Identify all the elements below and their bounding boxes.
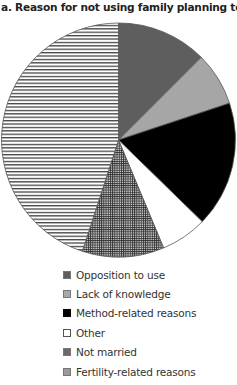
- legend-label: Method-related reasons: [76, 307, 196, 319]
- legend: Opposition to use Lack of knowledge Meth…: [63, 265, 196, 381]
- swatch-method-related: [63, 309, 71, 317]
- pie-slices: [2, 23, 236, 257]
- legend-item-method-related: Method-related reasons: [63, 304, 196, 323]
- legend-label: Fertility-related reasons: [76, 366, 196, 378]
- legend-label: Lack of knowledge: [76, 288, 170, 300]
- swatch-lack-of-knowledge: [63, 290, 71, 298]
- swatch-opposition: [63, 271, 71, 279]
- legend-item-not-married: Not married: [63, 343, 196, 362]
- pie-chart: [0, 18, 237, 262]
- legend-label: Opposition to use: [76, 269, 165, 281]
- legend-item-fertility-related: Fertility-related reasons: [63, 362, 196, 381]
- chart-title: a. Reason for not using family planning …: [1, 1, 237, 13]
- legend-item-opposition: Opposition to use: [63, 265, 196, 284]
- swatch-other: [63, 329, 71, 337]
- swatch-fertility-related: [63, 368, 71, 376]
- legend-label: Other: [76, 327, 105, 339]
- legend-item-other: Other: [63, 323, 196, 342]
- legend-label: Not married: [76, 346, 137, 358]
- swatch-not-married: [63, 348, 71, 356]
- legend-item-lack-of-knowledge: Lack of knowledge: [63, 284, 196, 303]
